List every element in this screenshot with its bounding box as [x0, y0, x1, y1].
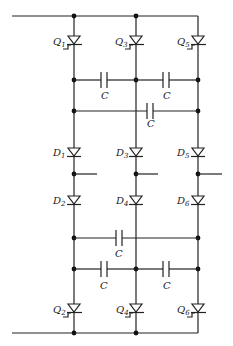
- capacitor-c6: [136, 261, 198, 277]
- thyristor-q6: [187, 304, 206, 317]
- circuit-svg: Q1 Q3 Q5 D1 D3 D5 D2 D4 D6 Q2 Q4 Q6 C C …: [0, 0, 233, 346]
- label-q1: Q1: [53, 36, 66, 49]
- diode-d4: [129, 196, 143, 205]
- label-c5: C: [100, 280, 108, 291]
- diode-d6: [191, 196, 205, 205]
- label-q6: Q6: [177, 304, 190, 317]
- diode-d2: [67, 196, 81, 205]
- label-d1: D1: [52, 147, 66, 160]
- label-q5: Q5: [177, 36, 190, 49]
- label-q4: Q4: [116, 304, 129, 317]
- capacitor-c2: [136, 72, 198, 88]
- label-c3: C: [147, 118, 155, 129]
- label-d2: D2: [52, 195, 66, 208]
- label-c1: C: [101, 90, 109, 101]
- label-d4: D4: [115, 195, 129, 208]
- circuit-diagram: Q1 Q3 Q5 D1 D3 D5 D2 D4 D6 Q2 Q4 Q6 C C …: [0, 0, 233, 346]
- label-d6: D6: [176, 195, 190, 208]
- label-c6: C: [163, 280, 171, 291]
- thyristor-q3: [125, 36, 144, 49]
- thyristor-q5: [187, 36, 206, 49]
- diode-d5: [191, 148, 205, 157]
- label-c4: C: [115, 248, 123, 259]
- label-d3: D3: [115, 147, 129, 160]
- thyristor-q2: [63, 304, 82, 317]
- capacitor-c1: [74, 72, 136, 88]
- label-d5: D5: [176, 147, 190, 160]
- thyristor-q1: [63, 36, 82, 49]
- label-q3: Q3: [115, 36, 128, 49]
- capacitor-c5: [74, 261, 136, 277]
- label-c2: C: [163, 90, 171, 101]
- diode-d3: [129, 148, 143, 157]
- diode-d1: [67, 148, 81, 157]
- label-q2: Q2: [53, 304, 66, 317]
